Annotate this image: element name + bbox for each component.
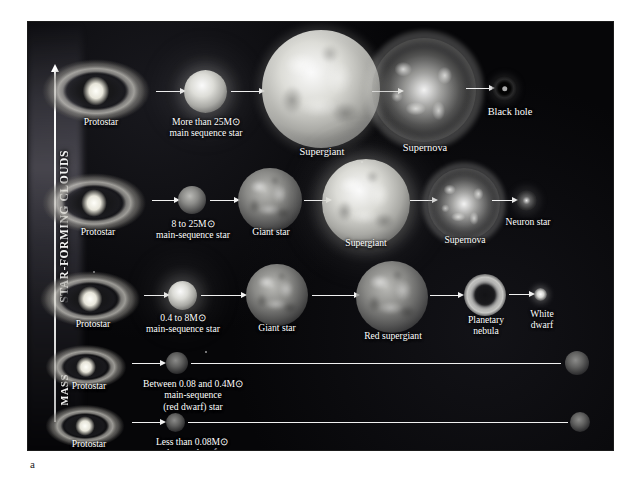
track-2-arrow-5 xyxy=(492,200,514,201)
track-5-brown-dwarf-object xyxy=(166,413,185,432)
track-1-protostar-object xyxy=(40,58,152,124)
track-4-long-arrow xyxy=(191,363,561,364)
track-3-giant-star-object xyxy=(246,264,308,326)
track-3-planetary-nebula-object xyxy=(464,274,506,316)
track-4-red-dwarf-object xyxy=(166,352,188,374)
figure-page: STAR-FORMING CLOUDS MASS TIME Protostar … xyxy=(0,0,639,482)
track-3-arrow-4 xyxy=(430,295,460,296)
track-4-protostar-object xyxy=(44,344,128,390)
track-1-main-sequence-star-object xyxy=(184,70,227,113)
track-1-black-hole-object xyxy=(492,76,517,101)
track-1-main-sequence-star-label: More than 25M⊙ main sequence star xyxy=(157,116,255,139)
track-5-protostar-object xyxy=(44,404,126,448)
track-2-neutron-star-object xyxy=(516,190,537,211)
track-2-supernova-object xyxy=(428,168,500,240)
track-4-end-state-object xyxy=(565,351,589,375)
track-3-main-sequence-star-label: 0.4 to 8M⊙ main-sequence star xyxy=(132,312,234,335)
track-2-arrow-1 xyxy=(152,200,176,201)
track-3-white-dwarf-object xyxy=(534,288,547,301)
track-1-arrow-2 xyxy=(231,91,261,92)
track-2-supergiant-object xyxy=(322,159,410,247)
track-4-red-dwarf-label: Between 0.08 and 0.4M⊙ main-sequence (re… xyxy=(120,378,266,412)
track-5-brown-dwarf-label: Less than 0.08M⊙ brown dwarf xyxy=(132,436,252,450)
track-5-arrow-1 xyxy=(132,422,162,423)
track-1-arrow-1 xyxy=(156,91,182,92)
track-3-arrow-1 xyxy=(144,295,166,296)
track-4-arrow-1 xyxy=(132,363,162,364)
track-3-arrow-3 xyxy=(312,295,356,296)
track-3-arrow-5 xyxy=(509,294,531,295)
track-2-main-sequence-star-object xyxy=(178,186,206,214)
track-2-protostar-object xyxy=(40,172,148,234)
track-1-supergiant-object xyxy=(262,30,380,148)
figure-label: a xyxy=(30,458,35,470)
track-2-giant-star-object xyxy=(238,168,302,232)
track-5-end-state-object xyxy=(570,412,590,432)
track-3-planetary-nebula-label: Planetary nebula xyxy=(458,314,514,337)
track-1-arrow-4 xyxy=(466,88,491,89)
track-1-supernova-object xyxy=(372,38,476,142)
track-3-arrow-2 xyxy=(201,295,243,296)
track-1-black-hole-label: Black hole xyxy=(470,106,550,118)
track-3-white-dwarf-label: White dwarf xyxy=(514,308,570,331)
track-3-red-supergiant-object xyxy=(356,261,428,333)
track-2-main-sequence-star-label: 8 to 25M⊙ main-sequence star xyxy=(142,218,244,241)
stellar-evolution-panel: STAR-FORMING CLOUDS MASS TIME Protostar … xyxy=(28,22,613,450)
track-3-main-sequence-star-object xyxy=(168,281,197,310)
track-5-long-arrow xyxy=(188,422,568,423)
track-3-protostar-object xyxy=(38,270,142,328)
track-2-arrow-2 xyxy=(210,200,236,201)
